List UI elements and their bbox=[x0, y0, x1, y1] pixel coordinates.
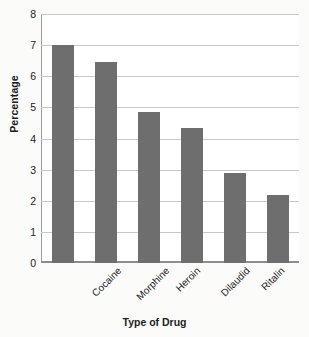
y-tick-label-4: 4 bbox=[18, 134, 36, 144]
y-tick-label-7: 7 bbox=[18, 40, 36, 50]
plot-area bbox=[41, 14, 299, 263]
bar-cocaine bbox=[52, 45, 74, 263]
x-tick-label-speedball: Speedball bbox=[307, 265, 309, 304]
y-tick-label-1: 1 bbox=[18, 227, 36, 237]
bar-speedball bbox=[267, 195, 289, 263]
bar-morphine bbox=[95, 62, 117, 263]
bar-series bbox=[41, 14, 299, 263]
y-tick-label-8: 8 bbox=[18, 9, 36, 19]
x-tick-label-ritalin: Ritalin bbox=[259, 265, 286, 292]
y-axis-tick-labels: 012345678 bbox=[18, 14, 36, 263]
bar-dilaudid bbox=[181, 128, 203, 263]
y-tick-label-0: 0 bbox=[18, 258, 36, 268]
x-tick-label-cocaine: Cocaine bbox=[89, 265, 123, 299]
y-tick-label-2: 2 bbox=[18, 196, 36, 206]
x-axis-title: Type of Drug bbox=[0, 316, 309, 328]
x-tick-label-heroin: Heroin bbox=[173, 265, 202, 294]
y-tick-label-6: 6 bbox=[18, 71, 36, 81]
y-tick-label-5: 5 bbox=[18, 102, 36, 112]
x-tick-label-dilaudid: Dilaudid bbox=[218, 265, 251, 298]
x-axis-tick-labels: CocaineMorphineHeroinDilaudidRitalinSpee… bbox=[41, 265, 299, 313]
y-tick-label-3: 3 bbox=[18, 165, 36, 175]
bar-chart: Percentage 012345678 CocaineMorphineHero… bbox=[0, 0, 309, 337]
x-tick-label-morphine: Morphine bbox=[134, 265, 171, 302]
bar-heroin bbox=[138, 112, 160, 263]
bar-ritalin bbox=[224, 173, 246, 263]
